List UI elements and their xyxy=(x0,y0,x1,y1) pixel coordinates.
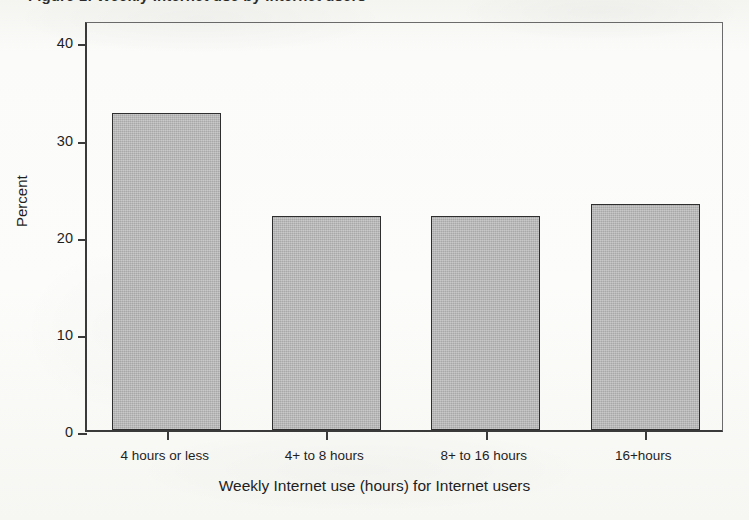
x-axis-tick-label: 4 hours or less xyxy=(120,448,209,463)
bar xyxy=(431,216,540,430)
x-axis-tick xyxy=(167,430,169,440)
x-axis-tick-label: 4+ to 8 hours xyxy=(285,448,364,463)
figure-caption-text: Figure 1: Weekly Internet use by Interne… xyxy=(28,0,366,4)
bar xyxy=(112,113,221,430)
x-axis-tick xyxy=(326,430,328,440)
y-axis-tick xyxy=(78,44,87,46)
bar xyxy=(591,204,700,430)
x-axis-tick-label: 16+hours xyxy=(615,448,672,463)
y-axis-tick-label: 20 xyxy=(57,230,73,246)
plot-area xyxy=(85,22,723,432)
figure-canvas: Figure 1: Weekly Internet use by Interne… xyxy=(0,0,749,520)
x-axis-tick-label: 8+ to 16 hours xyxy=(440,448,527,463)
x-axis-tick xyxy=(486,430,488,440)
bar xyxy=(272,216,381,430)
y-axis-tick-label: 40 xyxy=(57,35,73,51)
y-axis-tick xyxy=(78,142,87,144)
y-axis-tick-label: 10 xyxy=(57,327,73,343)
figure-caption-clipped: Figure 1: Weekly Internet use by Interne… xyxy=(0,0,749,11)
y-axis-tick xyxy=(78,336,87,338)
y-axis-tick-label: 0 xyxy=(65,424,73,440)
x-axis-title: Weekly Internet use (hours) for Internet… xyxy=(0,477,749,495)
x-axis-tick xyxy=(645,430,647,440)
y-axis-tick xyxy=(78,239,87,241)
y-axis-title: Percent xyxy=(13,175,30,227)
y-axis-tick xyxy=(78,433,87,435)
y-axis-tick-label: 30 xyxy=(57,133,73,149)
